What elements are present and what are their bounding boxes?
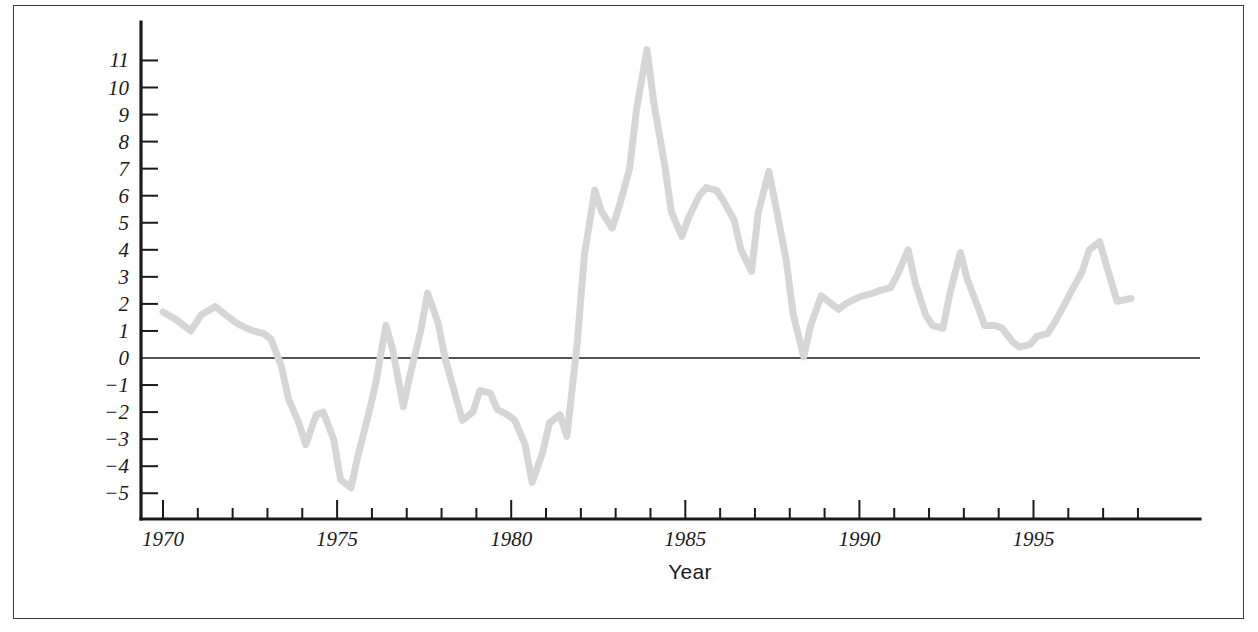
y-tick-label: −4 (104, 454, 129, 478)
y-tick-label: 4 (119, 238, 130, 262)
x-tick-label: 1995 (1013, 527, 1055, 551)
y-tick-label: 3 (118, 265, 130, 289)
y-tick-label: 9 (119, 103, 130, 127)
y-tick-label: −1 (104, 373, 129, 397)
data-series-line (163, 50, 1131, 488)
y-axis-tick-labels: −5−4−3−2−101234567891011 (104, 48, 130, 505)
x-axis-tick-labels: 197019751980198519901995 (142, 527, 1055, 551)
y-tick-label: 11 (110, 48, 129, 72)
y-tick-label: 10 (108, 76, 130, 100)
x-tick-label: 1970 (142, 527, 185, 551)
x-tick-label: 1980 (490, 527, 533, 551)
x-axis-ticks (163, 500, 1138, 519)
y-tick-label: 0 (119, 346, 130, 370)
x-tick-label: 1975 (316, 527, 358, 551)
y-tick-label: −5 (104, 481, 129, 505)
y-tick-label: −3 (104, 427, 129, 451)
y-tick-label: 6 (119, 184, 130, 208)
y-tick-label: 5 (119, 211, 130, 235)
x-tick-label: 1985 (664, 527, 706, 551)
x-axis-title: Year (590, 560, 790, 584)
y-tick-label: 2 (119, 292, 130, 316)
line-chart-canvas: 197019751980198519901995 −5−4−3−2−101234… (0, 0, 1258, 632)
y-tick-label: −2 (104, 400, 129, 424)
y-tick-label: 8 (119, 130, 130, 154)
x-tick-label: 1990 (838, 527, 881, 551)
y-tick-label: 7 (119, 157, 131, 181)
y-tick-label: 1 (119, 319, 130, 343)
y-axis-ticks (141, 60, 158, 493)
chart-figure: 197019751980198519901995 −5−4−3−2−101234… (0, 0, 1258, 632)
